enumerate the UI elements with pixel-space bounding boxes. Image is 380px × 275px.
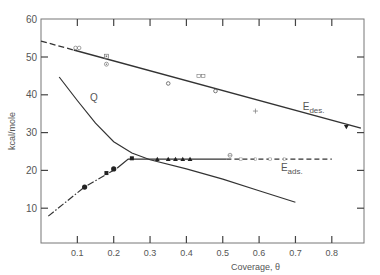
axis-ticks [41, 19, 364, 243]
y-tick-label: 60 [26, 14, 38, 25]
plot-frame [41, 19, 364, 243]
y-tick-label: 30 [26, 127, 38, 138]
data-point-down-triangle [344, 125, 349, 129]
x-tick-label: 0.8 [326, 248, 339, 258]
plot-series: Edes.QEads. [41, 41, 361, 216]
data-point-open-circle [77, 46, 81, 50]
x-tick-label: 0.5 [216, 248, 229, 258]
q-label: Q [90, 92, 98, 103]
data-point-open-square [283, 158, 285, 160]
x-tick-label: 0.2 [107, 248, 120, 258]
axis-labels: 0.10.20.30.40.50.60.70.8102030405060Cove… [7, 14, 338, 272]
data-point-plus [253, 109, 258, 114]
y-axis-title: kcal/mole [7, 112, 17, 150]
x-tick-label: 0.7 [289, 248, 302, 258]
y-tick-label: 40 [26, 89, 38, 100]
data-point-filled-circle [111, 166, 116, 171]
x-axis-title: Coverage, θ [231, 262, 280, 272]
edes-line [74, 50, 361, 128]
edes-dashed-extrapolation [41, 41, 74, 50]
data-point-open-circle [166, 82, 170, 86]
eads-label: Eads. [281, 162, 303, 176]
data-point-open-circle [214, 89, 218, 93]
plot-axes [41, 19, 364, 243]
data-point-filled-square [104, 171, 108, 175]
data-point-boxed [201, 74, 205, 77]
data-point-filled-square [130, 156, 134, 160]
data-point-open-square [254, 158, 256, 160]
data-point-box-center [106, 55, 108, 57]
y-tick-label: 10 [26, 203, 38, 214]
energy-coverage-plot: Edes.QEads. 0.10.20.30.40.50.60.70.81020… [0, 0, 380, 275]
eads-dashdot-rise [48, 168, 117, 216]
y-tick-label: 20 [26, 165, 38, 176]
data-point-open-square [269, 158, 271, 160]
chart-container: Edes.QEads. 0.10.20.30.40.50.60.70.81020… [0, 0, 380, 275]
eads-plateau [117, 159, 226, 168]
data-point-dot [106, 63, 107, 64]
data-point-filled-circle [82, 184, 87, 189]
data-point-open-circle [74, 46, 78, 50]
data-point-boxed [197, 74, 201, 77]
y-tick-label: 50 [26, 52, 38, 63]
x-tick-label: 0.3 [144, 248, 157, 258]
x-tick-label: 0.1 [71, 248, 84, 258]
data-point-open-square [240, 158, 242, 160]
x-tick-label: 0.6 [253, 248, 266, 258]
x-tick-label: 0.4 [180, 248, 193, 258]
